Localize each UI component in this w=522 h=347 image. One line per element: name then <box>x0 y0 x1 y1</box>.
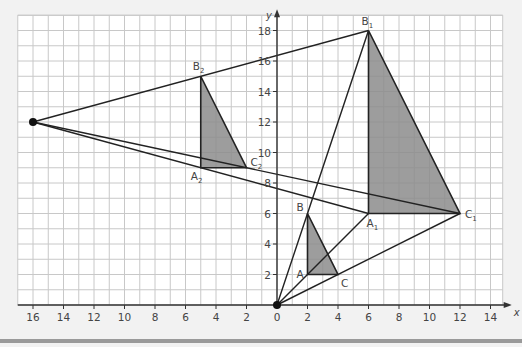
y-axis-arrow-icon <box>274 9 280 17</box>
vertex-label-a: A <box>297 268 305 280</box>
x-tick-label: 2 <box>243 311 250 323</box>
y-tick-label: 8 <box>264 177 271 189</box>
x-tick-label: 6 <box>365 311 372 323</box>
x-tick-label: 4 <box>335 311 342 323</box>
x-tick-label: 10 <box>423 311 436 323</box>
x-tick-label: 4 <box>213 311 220 323</box>
vertex-label-b: B <box>297 201 304 213</box>
x-tick-label: 10 <box>118 311 131 323</box>
vertex-label-c: C <box>341 277 348 289</box>
x-tick-label: 16 <box>26 311 40 323</box>
x-tick-label: 14 <box>57 311 71 323</box>
y-axis-label: y <box>265 10 273 21</box>
y-tick-label: 2 <box>264 269 271 281</box>
centre-of-enlargement-dot <box>29 118 37 126</box>
x-axis-label: x <box>513 307 520 318</box>
x-axis-arrow-icon <box>504 302 512 308</box>
x-tick-label: 2 <box>304 311 311 323</box>
y-tick-label: 4 <box>264 238 271 250</box>
y-tick-label: 14 <box>258 86 272 98</box>
x-tick-label: 12 <box>453 311 466 323</box>
y-tick-label: 16 <box>258 55 272 67</box>
y-tick-label: 12 <box>258 116 271 128</box>
x-tick-label: 6 <box>182 311 189 323</box>
centre-of-enlargement-dot <box>273 301 281 309</box>
y-tick-label: 10 <box>258 147 271 159</box>
x-tick-label: 8 <box>152 311 159 323</box>
x-tick-label: 12 <box>87 311 100 323</box>
x-tick-label: 8 <box>396 311 403 323</box>
y-tick-label: 18 <box>258 25 271 37</box>
enlargement-diagram: xy1614121086420246810121424681012141618A… <box>0 0 522 347</box>
coordinate-grid: xy1614121086420246810121424681012141618A… <box>0 0 522 347</box>
y-tick-label: 6 <box>264 208 271 220</box>
x-tick-label: 14 <box>484 311 498 323</box>
bottom-divider <box>0 339 522 343</box>
x-tick-label: 0 <box>274 311 281 323</box>
